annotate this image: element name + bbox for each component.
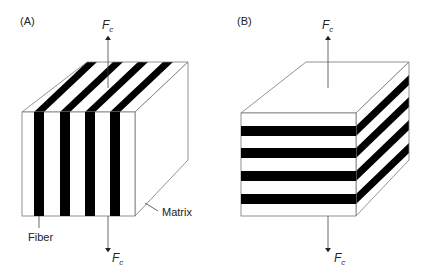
panel-b-label: (B): [237, 15, 252, 27]
composite-fiber-diagram: (A) Fc Fc Fiber: [0, 0, 428, 276]
matrix-label: Matrix: [162, 206, 192, 218]
panel-b-front-face: [241, 113, 356, 216]
panel-a-label: (A): [20, 15, 35, 27]
panel-a-force-bottom-label: Fc: [112, 251, 123, 267]
panel-b-force-top-label: Fc: [322, 18, 333, 34]
fiber-label: Fiber: [28, 231, 53, 243]
panel-a-force-top-label: Fc: [102, 18, 113, 34]
matrix-leader-line: [145, 203, 158, 211]
panel-b-force-bottom-label: Fc: [334, 251, 345, 267]
panel-a-front-face: [22, 112, 135, 216]
panel-b: (B) Fc Fc: [237, 15, 409, 267]
panel-a: (A) Fc Fc Fiber: [20, 15, 192, 267]
